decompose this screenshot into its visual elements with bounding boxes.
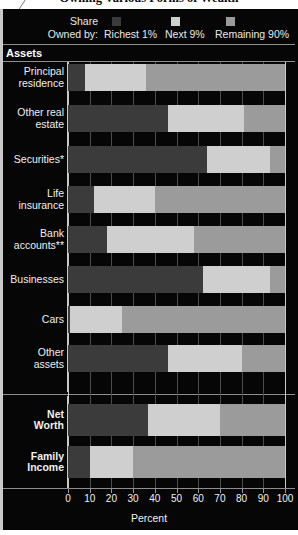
axis-tick-label-60: 60: [193, 493, 204, 504]
axis-tick-label-40: 40: [149, 493, 160, 504]
bottom-rule: [0, 530, 298, 535]
axis-tick-label-90: 90: [258, 493, 269, 504]
axis-tick-label-30: 30: [128, 493, 139, 504]
axis-tick-label-100: 100: [277, 493, 294, 504]
legend-label-remaining-90: Remaining 90%: [215, 28, 289, 40]
rule-assets-top: [3, 44, 295, 45]
rule-summary-divider: [3, 394, 295, 395]
panel-left-edge: [0, 9, 3, 530]
rule-assets-bottom: [3, 61, 295, 62]
legend: Share Owned by: Richest 1% Next 9% Remai…: [0, 14, 298, 46]
legend-caption: Share Owned by:: [6, 15, 98, 40]
axis-tick-label-70: 70: [214, 493, 225, 504]
section-header-assets: Assets: [6, 47, 42, 59]
axis-tick-label-10: 10: [84, 493, 95, 504]
x-axis: 0102030405060708090100: [0, 489, 298, 509]
axis-tick-label-50: 50: [171, 493, 182, 504]
chart-panel: [0, 9, 298, 530]
legend-swatch-next-9: [171, 17, 180, 26]
legend-label-richest-1: Richest 1%: [104, 28, 157, 40]
axis-tick-label-0: 0: [65, 493, 71, 504]
axis-tick-label-20: 20: [106, 493, 117, 504]
chart-title-strip: Owning Various Forms of Wealth: [0, 0, 298, 9]
legend-caption-line1: Share: [6, 15, 98, 28]
legend-caption-line2: Owned by:: [6, 28, 98, 41]
legend-label-next-9: Next 9%: [165, 28, 205, 40]
x-axis-title: Percent: [0, 512, 298, 524]
axis-tick-label-80: 80: [236, 493, 247, 504]
legend-swatch-remaining-90: [226, 17, 235, 26]
legend-swatch-richest-1: [112, 17, 121, 26]
